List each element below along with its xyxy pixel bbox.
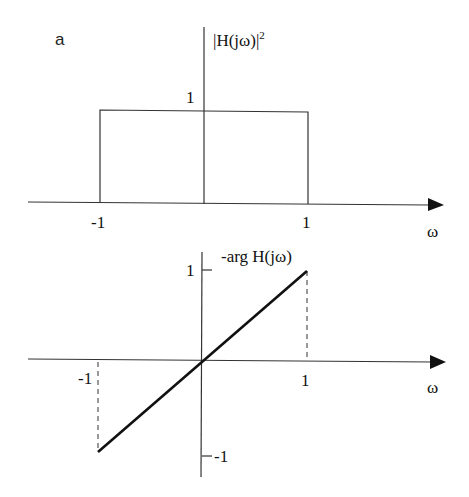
top-x-arrow-icon (428, 198, 444, 211)
bottom-y-tick-label-1: 1 (186, 261, 195, 280)
top-x-tick-1: 1 (302, 213, 311, 232)
top-x-tick-neg1: -1 (91, 213, 105, 232)
bottom-phase-line (98, 271, 307, 452)
bottom-y-axis (201, 252, 202, 477)
top-level-label: 1 (186, 88, 195, 107)
bottom-x-tick-neg1: -1 (78, 369, 92, 388)
bottom-y-tick-label-neg1: -1 (214, 447, 228, 466)
top-y-label: |H(jω)|2 (213, 29, 265, 50)
bottom-x-label: ω (427, 378, 438, 397)
top-x-label: ω (427, 222, 438, 241)
top-x-axis (28, 202, 430, 205)
bottom-y-label: -arg H(jω) (221, 247, 292, 266)
bottom-x-axis (28, 359, 432, 362)
panel-label: a (55, 30, 65, 49)
top-plot: |H(jω)|2 1 -1 1 ω (28, 27, 444, 241)
bottom-plot: -arg H(jω) 1 -1 -1 1 ω (28, 247, 446, 477)
bottom-x-tick-1: 1 (301, 371, 310, 390)
filter-diagram: a |H(jω)|2 1 -1 1 ω -arg H(jω) 1 -1 -1 1 (0, 0, 469, 497)
bottom-x-arrow-icon (430, 355, 446, 369)
